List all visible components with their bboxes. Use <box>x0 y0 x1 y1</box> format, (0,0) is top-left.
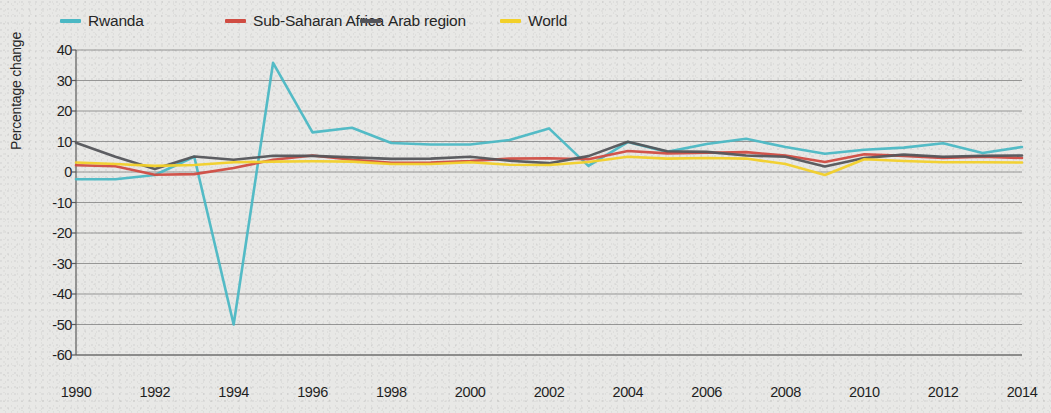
series-group <box>76 63 1022 325</box>
chart-figure: RwandaSub-Saharan AfricaArab regionWorld… <box>0 0 1051 413</box>
plot-area <box>0 0 1051 413</box>
gridlines <box>76 50 1022 355</box>
series-line-rwanda[interactable] <box>76 63 1022 325</box>
